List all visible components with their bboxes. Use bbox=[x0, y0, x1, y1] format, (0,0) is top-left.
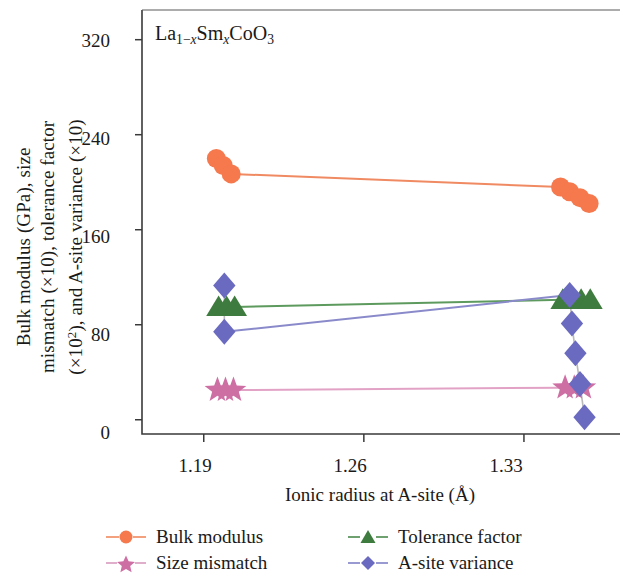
legend-label-a-site-variance: A-site variance bbox=[398, 552, 514, 574]
legend-swatch-a-site-variance bbox=[346, 553, 390, 573]
datapoint-bulk-modulus-2 bbox=[222, 164, 241, 183]
legend-label-tolerance-factor: Tolerance factor bbox=[398, 526, 522, 548]
datapoint-a-site-variance-0 bbox=[213, 273, 235, 299]
legend-label-bulk-modulus: Bulk modulus bbox=[156, 526, 263, 548]
series-line-size-mismatch bbox=[233, 388, 565, 390]
datapoint-bulk-modulus-6 bbox=[580, 194, 599, 213]
datapoint-a-site-variance-3 bbox=[561, 311, 583, 337]
legend-item-tolerance-factor[interactable]: Tolerance factor bbox=[346, 524, 576, 550]
legend-item-a-site-variance[interactable]: A-site variance bbox=[346, 550, 576, 576]
chart-legend: Bulk modulus Tolerance factor Size misma… bbox=[104, 524, 604, 576]
chart-figure: Bulk modulus (GPa), size mismatch (×10),… bbox=[0, 0, 624, 583]
legend-swatch-tolerance-factor bbox=[346, 527, 390, 547]
legend-swatch-bulk-modulus bbox=[104, 527, 148, 547]
datapoint-a-site-variance-6 bbox=[573, 404, 595, 430]
axis-spines bbox=[142, 10, 620, 434]
datapoint-a-site-variance-1 bbox=[213, 319, 235, 345]
legend-label-size-mismatch: Size mismatch bbox=[156, 552, 267, 574]
datapoint-a-site-variance-4 bbox=[564, 340, 586, 366]
series-line-a-site-variance bbox=[224, 295, 569, 332]
series-line-bulk-modulus bbox=[231, 174, 560, 187]
legend-item-bulk-modulus[interactable]: Bulk modulus bbox=[104, 524, 334, 550]
legend-item-size-mismatch[interactable]: Size mismatch bbox=[104, 550, 334, 576]
plot-area bbox=[0, 0, 624, 583]
legend-swatch-size-mismatch bbox=[104, 553, 148, 573]
